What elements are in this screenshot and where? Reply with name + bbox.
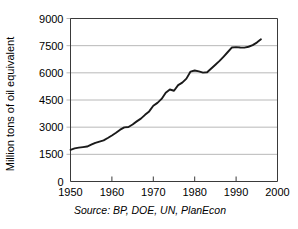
- data-series-line: [71, 39, 261, 149]
- x-tick-label: 1990: [224, 186, 248, 198]
- y-tick-label: 9000: [39, 13, 63, 25]
- x-tick-label: 1980: [182, 186, 206, 198]
- chart-page: 0150030004500600075009000 19501960197019…: [0, 0, 298, 229]
- y-tick-label-group: 0150030004500600075009000: [39, 13, 63, 188]
- y-tick-label: 4500: [39, 94, 63, 106]
- x-tick-label: 1950: [58, 186, 82, 198]
- gridlines-group: [67, 19, 278, 155]
- source-note: Source: BP, DOE, UN, PlanEcon: [74, 204, 226, 216]
- x-tick-label: 2000: [265, 186, 289, 198]
- line-chart: 0150030004500600075009000 19501960197019…: [0, 0, 298, 229]
- y-tick-label: 1500: [39, 148, 63, 160]
- x-tick-mark-group: [112, 177, 236, 182]
- x-tick-label-group: 195019601970198019902000: [58, 186, 289, 198]
- y-axis-title: Million tons of oil equivalent: [4, 37, 16, 172]
- y-tick-label: 6000: [39, 67, 63, 79]
- y-tick-label: 7500: [39, 40, 63, 52]
- y-tick-label: 3000: [39, 121, 63, 133]
- x-tick-label: 1970: [141, 186, 165, 198]
- x-tick-label: 1960: [100, 186, 124, 198]
